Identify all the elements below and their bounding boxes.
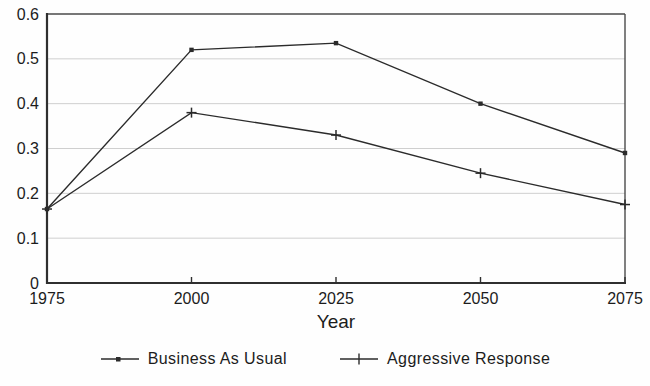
x-tick-label: 2025 (318, 290, 354, 307)
legend-label-aggressive-response: Aggressive Response (387, 350, 550, 368)
legend-item-aggressive-response: Aggressive Response (339, 350, 550, 368)
line-chart-plot: 00.10.20.30.40.50.619752000202520502075Y… (0, 0, 650, 340)
y-tick-label: 0.4 (17, 95, 39, 112)
y-tick-label: 0.2 (17, 185, 39, 202)
chart-figure: 00.10.20.30.40.50.619752000202520502075Y… (0, 0, 650, 386)
y-tick-label: 0.5 (17, 50, 39, 67)
legend-label-business-as-usual: Business As Usual (148, 350, 287, 368)
legend-item-business-as-usual: Business As Usual (100, 350, 287, 368)
x-tick-label: 1975 (29, 290, 65, 307)
series-line-0 (47, 43, 625, 209)
x-tick-label: 2075 (607, 290, 643, 307)
x-tick-label: 2050 (463, 290, 499, 307)
y-tick-label: 0 (30, 275, 39, 292)
y-tick-label: 0.6 (17, 6, 39, 23)
data-point-dot (478, 101, 482, 105)
y-tick-label: 0.1 (17, 230, 39, 247)
x-axis-title: Year (317, 311, 356, 332)
data-point-dot (334, 41, 338, 45)
legend-marker-plus-icon (339, 352, 379, 366)
chart-legend: Business As Usual Aggressive Response (0, 350, 650, 368)
legend-marker-dot-icon (100, 352, 140, 366)
x-tick-label: 2000 (174, 290, 210, 307)
y-tick-label: 0.3 (17, 140, 39, 157)
data-point-dot (189, 48, 193, 52)
data-point-dot (623, 151, 627, 155)
series-line-1 (47, 113, 625, 209)
